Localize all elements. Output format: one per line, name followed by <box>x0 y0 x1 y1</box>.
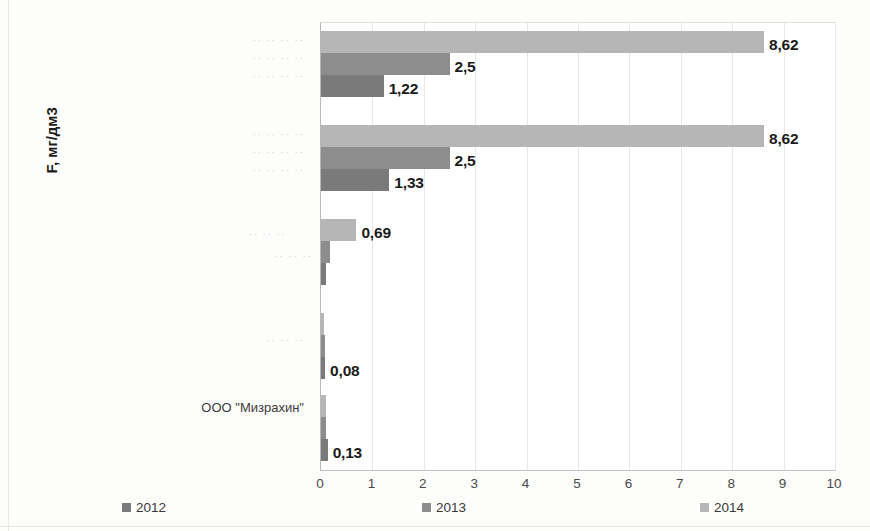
bar-2012-group-5 <box>321 439 328 461</box>
x-tick-3: 3 <box>470 476 478 491</box>
bar-value-label: 2,5 <box>455 58 476 76</box>
category-label-faint: ·· ·· ·· <box>248 228 286 240</box>
bar-value-label: 1,22 <box>389 80 418 98</box>
bar-2012-group-4 <box>321 357 325 379</box>
legend-item-2014[interactable]: 2014 <box>700 500 744 515</box>
legend-item-2013[interactable]: 2013 <box>422 500 466 515</box>
bar-2014-group-4 <box>321 313 324 335</box>
legend-swatch-icon <box>700 503 709 512</box>
legend-swatch-icon <box>122 503 131 512</box>
gridline <box>578 23 579 470</box>
legend-item-2012[interactable]: 2012 <box>122 500 166 515</box>
category-label-faint: ·· ·· ·· ·· <box>252 164 304 176</box>
bar-2012-group-3 <box>321 263 326 285</box>
bar-value-label: 2,5 <box>455 152 476 170</box>
bar-2014-group-1 <box>321 31 764 53</box>
x-tick-10: 10 <box>826 476 841 491</box>
category-label-faint: ·· ·· ·· ·· <box>252 52 304 64</box>
chart-legend: 201220132014 <box>0 500 870 524</box>
category-label-faint: ·· ·· ·· ·· <box>252 146 304 158</box>
x-tick-2: 2 <box>419 476 427 491</box>
bar-value-label: 0,08 <box>330 362 359 380</box>
x-tick-0: 0 <box>316 476 324 491</box>
x-tick-4: 4 <box>522 476 530 491</box>
bar-2012-group-2 <box>321 169 389 191</box>
legend-label: 2014 <box>714 500 744 515</box>
bar-2013-group-5 <box>321 417 326 439</box>
bar-2013-group-4 <box>321 335 325 357</box>
bar-value-label: 0,69 <box>361 224 390 242</box>
category-label-faint: ·· ·· ·· ·· <box>252 128 304 140</box>
legend-swatch-icon <box>422 503 431 512</box>
gridline <box>732 23 733 470</box>
x-tick-7: 7 <box>676 476 684 491</box>
bar-value-label: 8,62 <box>769 36 798 54</box>
gridline <box>784 23 785 470</box>
gridline <box>527 23 528 470</box>
bar-2012-group-1 <box>321 75 384 97</box>
bar-2013-group-1 <box>321 53 450 75</box>
x-tick-5: 5 <box>573 476 581 491</box>
gridline <box>835 23 836 470</box>
x-tick-6: 6 <box>625 476 633 491</box>
scanned-page: F, мг/дм3 ·· ·· ·· ···· ·· ·· ···· ·· ··… <box>0 0 870 531</box>
bar-value-label: 1,33 <box>394 174 423 192</box>
bar-2014-group-5 <box>321 395 326 417</box>
x-tick-8: 8 <box>727 476 735 491</box>
gridline <box>475 23 476 470</box>
x-tick-1: 1 <box>368 476 376 491</box>
bar-value-label: 0,13 <box>333 444 362 462</box>
category-label-ooo-mizrahin: ООО "Мизрахин" <box>201 400 304 415</box>
category-label-faint: ·· ·· ·· <box>274 250 312 262</box>
legend-label: 2013 <box>436 500 466 515</box>
page-edge-bottom <box>0 526 870 527</box>
gridline <box>424 23 425 470</box>
legend-label: 2012 <box>136 500 166 515</box>
gridline <box>629 23 630 470</box>
gridline <box>681 23 682 470</box>
category-label-faint: ·· ·· ·· ·· <box>252 70 304 82</box>
page-edge-left <box>8 0 9 531</box>
bar-2013-group-2 <box>321 147 450 169</box>
category-label-faint: ·· ·· ·· <box>266 334 304 346</box>
category-label-faint: ·· ·· ·· ·· <box>252 34 304 46</box>
bar-2014-group-3 <box>321 219 356 241</box>
x-tick-9: 9 <box>779 476 787 491</box>
bar-2013-group-3 <box>321 241 330 263</box>
bar-2014-group-2 <box>321 125 764 147</box>
bar-value-label: 8,62 <box>769 130 798 148</box>
y-axis-title: F, мг/дм3 <box>43 144 60 174</box>
plot-area: 8,622,51,228,622,51,330,690,080,13 <box>320 22 836 471</box>
